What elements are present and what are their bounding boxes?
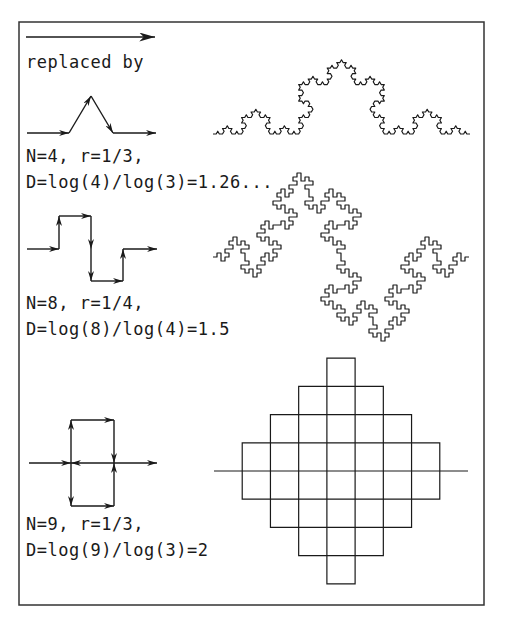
peano-generator-diagram [29, 420, 157, 506]
generator-segment-arrow [91, 96, 113, 133]
quadratic-koch-params-label: N=8, r=1/4, [26, 293, 144, 313]
koch-dimension-label: D=log(4)/log(3)=1.26... [26, 172, 273, 192]
quadratic-koch-generator-diagram [27, 216, 157, 281]
quadratic-koch-dimension-label: D=log(8)/log(4)=1.5 [26, 319, 230, 339]
quadratic-koch-fractal [213, 173, 469, 341]
peano-curve-fractal [214, 358, 468, 584]
peano-params-label: N=9, r=1/3, [26, 514, 144, 534]
koch-generator-diagram [27, 96, 156, 133]
koch-curve-fractal [213, 60, 470, 134]
peano-dimension-label: D=log(9)/log(3)=2 [26, 540, 209, 560]
fractal-dimension-figure: replaced by N=4, r=1/3, D=log(4)/log(3)=… [0, 0, 505, 623]
replaced-by-caption: replaced by [26, 52, 144, 72]
generator-segment-arrow [69, 96, 91, 133]
koch-params-label: N=4, r=1/3, [26, 146, 144, 166]
